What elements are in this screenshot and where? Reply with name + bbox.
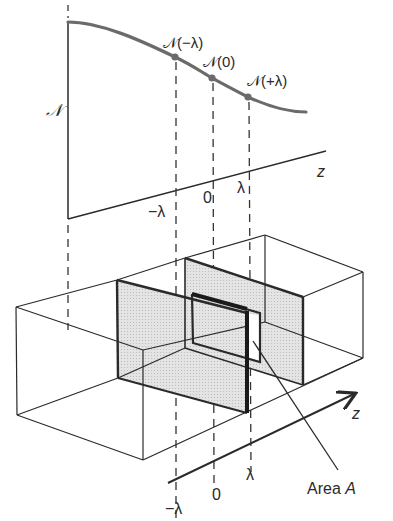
diagram: 𝒩 z 𝒩(−λ) 𝒩(0) 𝒩(+λ) −λ 0 λ [0,0,393,521]
area-a-label: Area A [307,480,356,497]
waveguide-box: z Area A −λ 0 λ [16,235,363,517]
z-arrow-label: z [351,405,360,422]
z-axis-arrow [168,394,354,483]
point-n-minus-lambda [171,53,178,60]
box-edge [265,235,363,272]
point-n-zero [208,74,215,81]
z-axis [68,151,326,219]
tick-lambda: λ [237,179,245,196]
area-a-var: A [344,480,356,497]
tick-minus-lambda: −λ [148,203,165,220]
area-a-prefix: Area [307,480,345,497]
label-n-plus-lambda: 𝒩(+λ) [247,72,287,89]
y-axis-label: 𝒩 [46,100,68,120]
bottom-tick-minus-lambda: −λ [165,500,182,517]
box-edge [16,280,117,307]
box-edge [303,272,363,297]
label-n-minus-lambda: 𝒩(−λ) [163,34,203,51]
z-axis-label: z [316,163,325,180]
box-edge [16,307,17,415]
bottom-tick-lambda: λ [246,466,254,483]
front-plane-left [117,280,118,378]
box-edge [117,258,185,280]
point-n-plus-lambda [244,93,251,100]
box-edge [185,235,265,258]
box-edge [17,378,118,415]
box-edge [17,415,143,460]
label-n-zero: 𝒩(0) [203,53,235,70]
tick-zero: 0 [203,189,212,206]
bottom-tick-zero: 0 [212,486,221,503]
